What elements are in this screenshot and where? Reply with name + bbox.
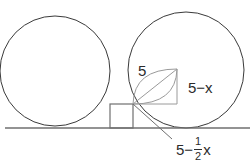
- base-length-label: 5 − 1 2 x: [176, 136, 211, 162]
- base-rectangle: [110, 104, 133, 128]
- base-label-variable: x: [203, 142, 211, 157]
- left-circle: [0, 16, 110, 126]
- base-label-lead: 5: [176, 142, 184, 157]
- hypotenuse-label: 5: [138, 63, 146, 78]
- fraction-denominator: 2: [194, 151, 202, 163]
- geometry-figure: 5 5−x 5 − 1 2 x: [0, 0, 252, 165]
- leader-line: [133, 104, 172, 139]
- geometry-canvas: [0, 0, 252, 165]
- vertical-side-label: 5−x: [188, 80, 213, 95]
- one-half-fraction: 1 2: [194, 136, 202, 162]
- base-label-minus: −: [184, 142, 193, 157]
- fraction-numerator: 1: [194, 136, 202, 148]
